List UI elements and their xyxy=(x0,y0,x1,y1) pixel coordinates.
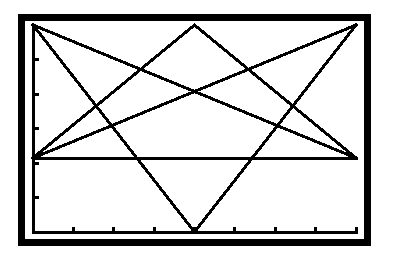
segment-4-line xyxy=(33,25,195,158)
segment-5-line xyxy=(195,25,357,158)
calculator-graph-screen: Calculator graph screen: star figure of … xyxy=(0,0,393,277)
segment-2-line xyxy=(33,25,195,232)
plot-series xyxy=(33,25,356,232)
graph-plot xyxy=(0,0,393,277)
plot-axes xyxy=(33,25,356,232)
outer-frame xyxy=(22,18,368,243)
segment-3-line xyxy=(195,25,357,232)
